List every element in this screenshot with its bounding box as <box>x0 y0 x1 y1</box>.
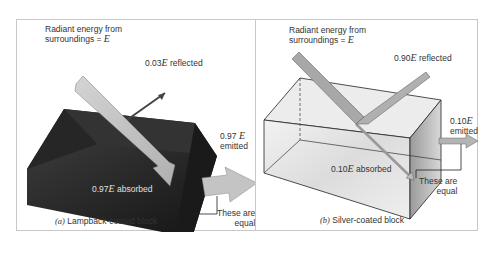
incident-label: Radiant energy from surroundings = E <box>45 24 122 44</box>
panel-silver: Radiant energy from surroundings = E 0.9… <box>255 19 478 231</box>
incident-label: Radiant energy from surroundings = E <box>289 25 366 45</box>
equal-label: These are equal <box>419 176 457 196</box>
absorbed-label: 0.10E absorbed <box>331 164 391 174</box>
reflected-label: 0.90E reflected <box>394 53 452 63</box>
caption-b: (b) Silver-coated block <box>320 215 404 225</box>
emitted-arrow <box>439 134 478 148</box>
equal-label: These are equal <box>217 208 255 228</box>
emitted-label: 0.97 E emitted <box>220 131 248 151</box>
lampblack-block-drawing <box>17 20 257 232</box>
silver-block-drawing <box>256 20 479 232</box>
caption-a: (a) Lampback-coated block <box>55 216 157 226</box>
emitted-label: 0.10E emitted <box>450 116 478 136</box>
reflected-label: 0.03E reflected <box>145 58 203 68</box>
panel-lampblack: Radiant energy from surroundings = E 0.0… <box>16 19 256 231</box>
absorbed-label: 0.97E absorbed <box>92 184 152 194</box>
